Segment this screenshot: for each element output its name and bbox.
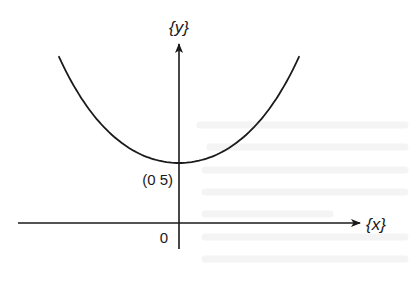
x-axis-label: {x} (366, 215, 386, 234)
y-axis-label: {y} (169, 18, 189, 37)
minimum-point-label: (0 5) (142, 171, 173, 188)
origin-label: 0 (160, 229, 168, 246)
show-through-text (200, 125, 405, 259)
function-graph: {y} {x} (0 5) 0 (0, 0, 412, 283)
